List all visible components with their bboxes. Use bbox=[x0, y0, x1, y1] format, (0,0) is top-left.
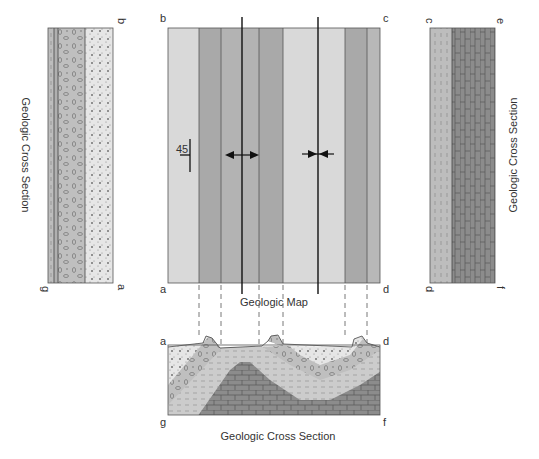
map-corner-d: d bbox=[383, 283, 389, 295]
limestone-layer bbox=[452, 28, 495, 283]
bottom-section-title: Geologic Cross Section bbox=[221, 430, 336, 442]
corner-label-f: f bbox=[495, 286, 507, 290]
map-corner-a: a bbox=[160, 283, 167, 295]
shale-layer bbox=[430, 28, 452, 283]
map-corner-c: c bbox=[383, 12, 389, 24]
corner-label-b: b bbox=[116, 18, 128, 24]
right-section-title: Geologic Cross Section bbox=[507, 98, 519, 213]
conglomerate-layer bbox=[58, 28, 85, 283]
geologic-map: 45 bbox=[168, 17, 380, 294]
sandstone-layer bbox=[85, 28, 113, 283]
corner-label-c: c bbox=[424, 18, 436, 24]
section-corner-d: d bbox=[383, 335, 389, 347]
bottom-cross-section bbox=[160, 330, 390, 420]
corner-label-a: a bbox=[116, 284, 128, 291]
map-band bbox=[259, 28, 283, 283]
left-section-title: Geologic Cross Section bbox=[20, 98, 32, 213]
map-title: Geologic Map bbox=[240, 296, 308, 308]
thin-layer bbox=[54, 28, 58, 283]
dip-value: 45 bbox=[176, 143, 188, 155]
geologic-diagram: b a g Geologic Cross Section bbox=[0, 0, 539, 459]
map-corner-b: b bbox=[160, 12, 166, 24]
corner-label-d: d bbox=[424, 286, 436, 292]
shale-layer bbox=[48, 28, 54, 283]
corner-label-e: e bbox=[495, 18, 507, 24]
map-band bbox=[345, 28, 367, 283]
corner-label-g: g bbox=[40, 286, 52, 292]
section-corner-g: g bbox=[160, 416, 166, 428]
map-band bbox=[283, 28, 345, 283]
map-band bbox=[199, 28, 221, 283]
projection-lines bbox=[199, 285, 367, 348]
section-corner-f: f bbox=[383, 416, 387, 428]
section-corner-a: a bbox=[160, 335, 167, 347]
right-cross-section bbox=[430, 28, 495, 283]
left-cross-section bbox=[48, 28, 113, 283]
map-band bbox=[367, 28, 380, 283]
